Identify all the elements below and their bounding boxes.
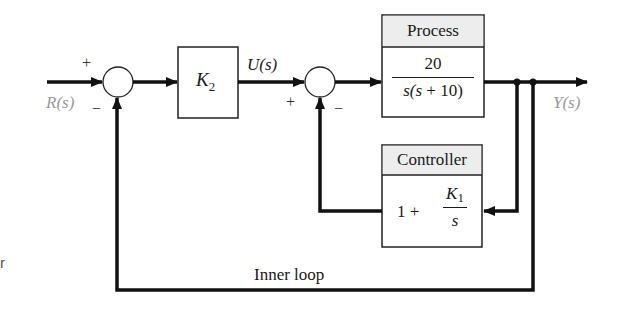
summer1-plus-sign: + [82, 55, 91, 71]
summer2-minus-sign: − [334, 101, 343, 117]
k2-label: K2 [196, 70, 215, 89]
process-transfer-function: 20 s(s + 10) [392, 54, 474, 101]
input-signal-label: R(s) [46, 94, 74, 111]
output-signal-label: Y(s) [553, 94, 580, 111]
summing-junction-1 [103, 67, 133, 97]
controller-fraction: K1 s [443, 184, 467, 231]
controller-denominator: s [443, 208, 467, 231]
process-numerator: 20 [392, 54, 474, 77]
controller-numerator: K1 [443, 184, 467, 207]
summer1-minus-sign: − [92, 101, 101, 117]
controller-constant: 1 + [397, 203, 419, 220]
summer2-plus-sign: + [286, 94, 295, 110]
process-denominator: s(s + 10) [392, 78, 474, 101]
summing-junction-2 [305, 67, 335, 97]
edge-text-fragment: r [0, 254, 5, 271]
controller-output-line [320, 98, 382, 211]
process-title: Process [382, 22, 484, 39]
u-signal-label: U(s) [247, 56, 277, 73]
inner-loop-label: Inner loop [254, 266, 324, 283]
controller-feedback-line [484, 82, 517, 211]
controller-title: Controller [382, 151, 482, 168]
